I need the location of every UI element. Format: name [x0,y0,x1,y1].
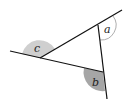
label-a: a [104,23,111,36]
triangle-diagram: a b c [0,0,128,106]
line-left [10,51,103,72]
label-b: b [92,76,99,89]
label-c: c [34,42,40,55]
